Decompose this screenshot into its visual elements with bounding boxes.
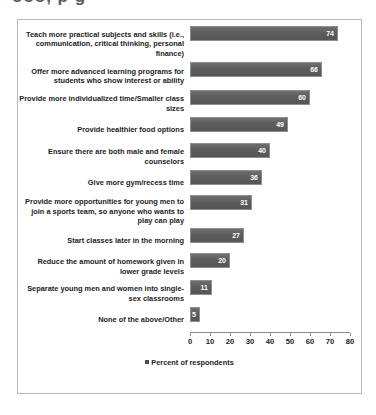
bar[interactable]: 5 (190, 307, 200, 322)
chart-frame: Teach more practical subjects and skills… (17, 19, 362, 394)
bar-track: 40 (190, 143, 361, 170)
x-axis-tick-label: 70 (326, 337, 334, 346)
bar-track: 27 (190, 228, 361, 253)
table-row: Teach more practical subjects and skills… (18, 26, 361, 62)
x-axis-tick-labels: 01020304050607080 (190, 337, 350, 349)
category-label: Reduce the amount of homework given in l… (18, 257, 190, 276)
bar-value-label: 20 (218, 257, 229, 264)
table-row: Provide more individualized time/Smaller… (18, 90, 361, 117)
table-row: Separate young men and women into single… (18, 280, 361, 307)
bar-value-label: 27 (232, 232, 243, 239)
x-axis-tick-label: 0 (188, 337, 192, 346)
table-row: Start classes later in the morning27 (18, 228, 361, 253)
bar-value-label: 66 (310, 66, 321, 73)
category-label: Offer more advanced learning programs fo… (18, 67, 190, 86)
bar[interactable]: 11 (190, 280, 212, 295)
bar[interactable]: 66 (190, 62, 322, 77)
clipped-title-text: ooo, p g (12, 0, 86, 7)
bar-track: 66 (190, 62, 361, 90)
x-axis-tick-label: 60 (306, 337, 314, 346)
x-axis-tick-mark (270, 333, 271, 336)
category-label: Give more gym/recess time (18, 178, 190, 187)
bar-value-label: 5 (192, 311, 199, 318)
chart-plot-area: Teach more practical subjects and skills… (18, 20, 361, 393)
bar-value-label: 49 (276, 121, 287, 128)
table-row: Reduce the amount of homework given in l… (18, 253, 361, 280)
bar-track: 74 (190, 26, 361, 62)
x-axis-tick-label: 80 (346, 337, 354, 346)
table-row: Offer more advanced learning programs fo… (18, 62, 361, 90)
bar-rows-container: Teach more practical subjects and skills… (18, 26, 361, 332)
table-row: Ensure there are both male and female co… (18, 143, 361, 170)
category-label: Separate young men and women into single… (18, 284, 190, 303)
bar-track: 11 (190, 280, 361, 307)
category-label: None of the above/Other (18, 315, 190, 324)
bar-value-label: 11 (201, 284, 211, 291)
table-row: Provide more opportunities for young men… (18, 195, 361, 228)
bar[interactable]: 49 (190, 117, 288, 132)
x-axis-tick-label: 40 (266, 337, 274, 346)
x-axis-tick-mark (350, 333, 351, 336)
legend-swatch-icon (145, 360, 149, 364)
table-row: Provide healthier food options49 (18, 117, 361, 143)
legend-entry: Percent of respondents (145, 358, 234, 367)
legend-label: Percent of respondents (151, 358, 234, 367)
bar[interactable]: 20 (190, 253, 230, 268)
x-axis-tick-mark (290, 333, 291, 336)
bar[interactable]: 27 (190, 228, 244, 243)
x-axis-tick-mark (330, 333, 331, 336)
category-label: Provide more opportunities for young men… (18, 197, 190, 225)
bar[interactable]: 74 (190, 26, 338, 41)
x-axis-tick-label: 20 (226, 337, 234, 346)
bar[interactable]: 31 (190, 195, 252, 210)
chart-legend: Percent of respondents (18, 350, 361, 368)
bar-value-label: 36 (250, 174, 261, 181)
category-label: Provide more individualized time/Smaller… (18, 94, 190, 113)
category-label: Ensure there are both male and female co… (18, 147, 190, 166)
bar-track: 5 (190, 307, 361, 332)
category-label: Teach more practical subjects and skills… (18, 30, 190, 58)
x-axis-tick-mark (210, 333, 211, 336)
x-axis-tick-mark (190, 333, 191, 336)
table-row: Give more gym/recess time36 (18, 170, 361, 195)
table-row: None of the above/Other5 (18, 307, 361, 332)
clipped-title-bleed: ooo, p g (0, 0, 376, 16)
category-label: Provide healthier food options (18, 125, 190, 134)
x-axis-tick-label: 30 (246, 337, 254, 346)
bar-track: 49 (190, 117, 361, 143)
bar[interactable]: 40 (190, 143, 270, 158)
bar-track: 20 (190, 253, 361, 280)
bar-track: 36 (190, 170, 361, 195)
category-label: Start classes later in the morning (18, 236, 190, 245)
bar-value-label: 60 (298, 94, 309, 101)
x-axis-tick-mark (250, 333, 251, 336)
bar-track: 60 (190, 90, 361, 117)
x-axis-tick-label: 50 (286, 337, 294, 346)
bar[interactable]: 36 (190, 170, 262, 185)
bar-track: 31 (190, 195, 361, 228)
bar-value-label: 40 (258, 147, 269, 154)
x-axis-tick-mark (230, 333, 231, 336)
bar-value-label: 31 (240, 199, 251, 206)
x-axis-tick-label: 10 (206, 337, 214, 346)
bar-value-label: 74 (326, 30, 337, 37)
bar[interactable]: 60 (190, 90, 310, 105)
x-axis-tick-mark (310, 333, 311, 336)
